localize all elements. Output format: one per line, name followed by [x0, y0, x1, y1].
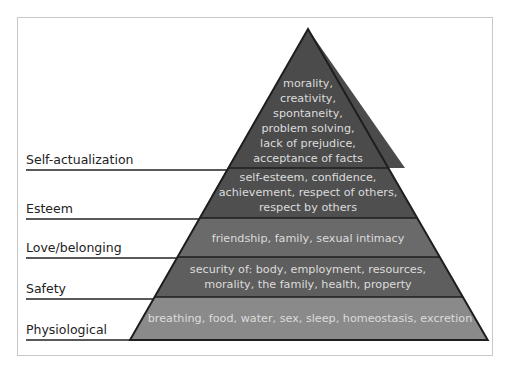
- description-esteem: self-esteem, confidence, achievement, re…: [198, 170, 418, 215]
- label-love-belonging: Love/belonging: [26, 240, 122, 255]
- label-esteem: Esteem: [26, 201, 73, 216]
- label-safety: Safety: [26, 281, 66, 296]
- description-physiological: breathing, food, water, sex, sleep, home…: [140, 311, 480, 326]
- description-safety: security of: body, employment, resources…: [158, 262, 458, 292]
- description-love-belonging: friendship, family, sexual intimacy: [178, 231, 438, 246]
- label-physiological: Physiological: [26, 322, 107, 337]
- description-self-actualization: morality, creativity, spontaneity, probl…: [208, 76, 408, 166]
- label-self-actualization: Self-actualization: [26, 152, 133, 167]
